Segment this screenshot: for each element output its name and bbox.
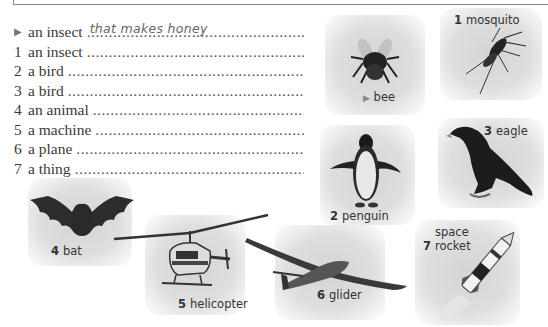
list-prompt: an insect bbox=[28, 22, 83, 42]
picture-label: 4bat bbox=[51, 244, 82, 258]
list-item: 6 a plane bbox=[14, 139, 304, 159]
answer-line[interactable] bbox=[68, 61, 304, 81]
item-number: 4 bbox=[14, 100, 28, 120]
answer-line[interactable] bbox=[87, 42, 304, 62]
definitions-list: ▶ an insect that makes honey 1 an insect… bbox=[14, 22, 304, 178]
bee-icon bbox=[345, 37, 405, 87]
answer-line[interactable] bbox=[95, 120, 304, 140]
item-number: 1 bbox=[14, 42, 28, 62]
answer-line[interactable] bbox=[76, 139, 304, 159]
list-prompt: an animal bbox=[28, 100, 89, 120]
picture-label: 3eagle bbox=[484, 124, 528, 138]
answer-line[interactable] bbox=[68, 81, 304, 101]
item-number: 2 bbox=[14, 61, 28, 81]
answer-text: that makes honey bbox=[90, 22, 208, 39]
example-marker: ▶ bbox=[14, 22, 28, 42]
list-item: 2 a bird bbox=[14, 61, 304, 81]
instructions-box bbox=[13, 0, 548, 5]
list-prompt: a bird bbox=[28, 61, 64, 81]
picture-card-mosquito: 1mosquito bbox=[440, 8, 542, 100]
list-prompt: a machine bbox=[28, 120, 91, 140]
picture-card-space-rocket: 7space rocket bbox=[415, 220, 520, 325]
list-item: ▶ an insect that makes honey bbox=[14, 22, 304, 42]
rocket-icon bbox=[425, 224, 515, 322]
list-item: 1 an insect bbox=[14, 42, 304, 62]
item-number: 7 bbox=[14, 159, 28, 179]
answer-line[interactable] bbox=[93, 100, 304, 120]
picture-card-bee: ▶ bee bbox=[325, 15, 425, 115]
item-number: 5 bbox=[14, 120, 28, 140]
answer-line[interactable] bbox=[75, 159, 304, 179]
list-prompt: a bird bbox=[28, 81, 64, 101]
list-item: 7 a thing bbox=[14, 159, 304, 179]
item-number: 6 bbox=[14, 139, 28, 159]
item-number: 3 bbox=[14, 81, 28, 101]
picture-label: 2penguin bbox=[330, 209, 389, 223]
mosquito-icon bbox=[460, 26, 530, 96]
list-item: 4 an animal bbox=[14, 100, 304, 120]
picture-label: 1mosquito bbox=[454, 13, 520, 27]
picture-label: ▶ bee bbox=[363, 90, 395, 104]
list-prompt: a thing bbox=[28, 159, 71, 179]
answer-line[interactable]: that makes honey bbox=[87, 22, 304, 42]
list-prompt: an insect bbox=[28, 42, 83, 62]
picture-card-penguin: 2penguin bbox=[320, 125, 415, 225]
list-item: 5 a machine bbox=[14, 120, 304, 140]
list-prompt: a plane bbox=[28, 139, 72, 159]
picture-card-eagle: 3eagle bbox=[438, 118, 544, 208]
penguin-icon bbox=[328, 131, 403, 211]
list-item: 3 a bird bbox=[14, 81, 304, 101]
glider-icon bbox=[243, 232, 413, 302]
